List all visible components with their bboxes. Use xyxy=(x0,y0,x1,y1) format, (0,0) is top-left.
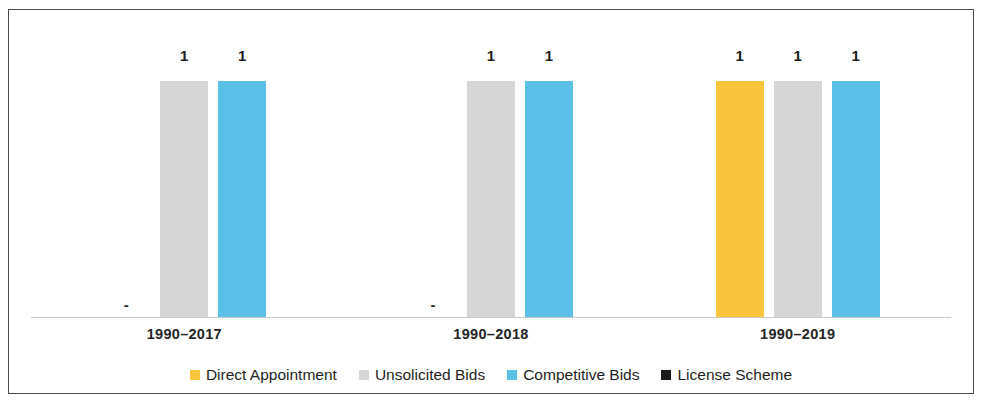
bar-slot-direct-appointment[interactable]: - xyxy=(409,10,457,317)
bar-slot-competitive-bids[interactable]: 1 xyxy=(218,10,266,317)
legend-swatch-icon xyxy=(661,370,671,380)
bar-direct-appointment[interactable] xyxy=(716,81,764,317)
legend-label: Direct Appointment xyxy=(206,366,337,384)
bar-value-label: 1 xyxy=(218,47,266,64)
legend-label: Competitive Bids xyxy=(523,366,639,384)
bar-value-label: 1 xyxy=(774,47,822,64)
bar-value-label: 1 xyxy=(716,47,764,64)
chart-frame: - 1 1 - 1 xyxy=(8,9,974,394)
category-label: 1990–2019 xyxy=(644,326,951,354)
category-axis-labels: 1990–2017 1990–2018 1990–2019 xyxy=(31,326,951,354)
legend-item-direct-appointment[interactable]: Direct Appointment xyxy=(190,366,337,384)
category-axis-line xyxy=(31,317,951,318)
bar-competitive-bids[interactable] xyxy=(525,81,573,317)
legend-swatch-icon xyxy=(507,370,517,380)
bar-slot-unsolicited-bids[interactable]: 1 xyxy=(774,10,822,317)
category-label: 1990–2018 xyxy=(338,326,645,354)
zero-value-dash: - xyxy=(409,300,457,310)
plot-area: - 1 1 - 1 xyxy=(9,10,973,319)
bar-value-label: 1 xyxy=(467,47,515,64)
bar-slot-competitive-bids[interactable]: 1 xyxy=(525,10,573,317)
bar-value-label: 1 xyxy=(832,47,880,64)
bar-competitive-bids[interactable] xyxy=(218,81,266,317)
bar-slot-competitive-bids[interactable]: 1 xyxy=(832,10,880,317)
bar-value-label: 1 xyxy=(525,47,573,64)
legend-label: License Scheme xyxy=(677,366,792,384)
bar-group: 1 1 1 xyxy=(644,10,951,317)
bar-unsolicited-bids[interactable] xyxy=(467,81,515,317)
bar-slot-unsolicited-bids[interactable]: 1 xyxy=(160,10,208,317)
bar-slot-unsolicited-bids[interactable]: 1 xyxy=(467,10,515,317)
bar-value-label: 1 xyxy=(160,47,208,64)
legend-swatch-icon xyxy=(190,370,200,380)
legend-item-unsolicited-bids[interactable]: Unsolicited Bids xyxy=(359,366,485,384)
bar-unsolicited-bids[interactable] xyxy=(160,81,208,317)
bar-competitive-bids[interactable] xyxy=(832,81,880,317)
bar-slot-direct-appointment[interactable]: - xyxy=(102,10,150,317)
bar-groups: - 1 1 - 1 xyxy=(31,10,951,317)
zero-value-dash: - xyxy=(102,300,150,310)
bar-unsolicited-bids[interactable] xyxy=(774,81,822,317)
legend-label: Unsolicited Bids xyxy=(375,366,485,384)
legend-swatch-icon xyxy=(359,370,369,380)
bar-group: - 1 1 xyxy=(338,10,645,317)
bar-slot-direct-appointment[interactable]: 1 xyxy=(716,10,764,317)
legend-item-license-scheme[interactable]: License Scheme xyxy=(661,366,792,384)
legend-item-competitive-bids[interactable]: Competitive Bids xyxy=(507,366,639,384)
category-label: 1990–2017 xyxy=(31,326,338,354)
bar-group: - 1 1 xyxy=(31,10,338,317)
chart-legend: Direct Appointment Unsolicited Bids Comp… xyxy=(9,362,973,388)
